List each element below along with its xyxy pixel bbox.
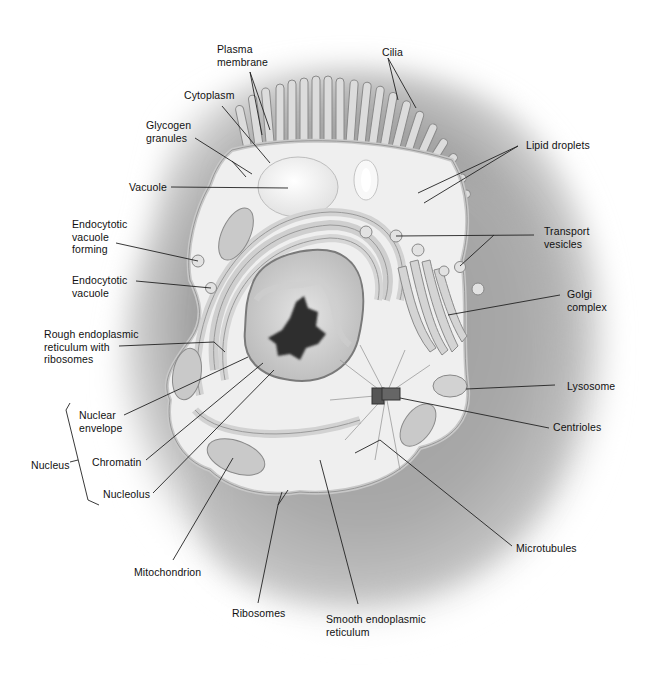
label-transport-vesicles: Transport vesicles <box>544 225 589 250</box>
label-rough-er: Rough endoplasmic reticulum with ribosom… <box>44 328 139 366</box>
label-ribosomes: Ribosomes <box>232 607 285 620</box>
label-endocytotic-vacuole: Endocytotic vacuole <box>72 274 127 299</box>
label-nucleus: Nucleus <box>31 459 70 472</box>
label-centrioles: Centrioles <box>553 421 601 434</box>
label-lipid-droplets: Lipid droplets <box>526 139 590 152</box>
label-chromatin: Chromatin <box>92 456 141 469</box>
label-vacuole: Vacuole <box>129 181 167 194</box>
label-microtubules: Microtubules <box>516 542 577 555</box>
label-glycogen-granules: Glycogen granules <box>146 119 191 144</box>
label-mitochondrion: Mitochondrion <box>134 566 201 579</box>
label-nucleolus: Nucleolus <box>103 488 150 501</box>
label-endocytotic-vacuole-forming: Endocytotic vacuole forming <box>72 218 127 256</box>
nucleus-illustration <box>245 250 364 381</box>
label-smooth-er: Smooth endoplasmic reticulum <box>326 613 426 638</box>
label-cilia: Cilia <box>382 46 403 59</box>
lysosome-illustration <box>433 375 467 397</box>
label-golgi-complex: Golgi complex <box>567 288 607 313</box>
label-lysosome: Lysosome <box>567 380 615 393</box>
label-plasma-membrane: Plasma membrane <box>217 43 268 68</box>
label-cytoplasm: Cytoplasm <box>184 89 235 102</box>
cell-diagram: Plasma membrane Cilia Cytoplasm Glycogen… <box>0 0 648 678</box>
label-nuclear-envelope: Nuclear envelope <box>79 409 122 434</box>
